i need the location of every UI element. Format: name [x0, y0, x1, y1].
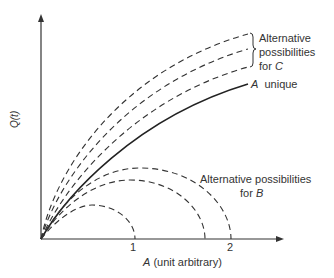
label-b-line2: for B	[240, 187, 263, 200]
label-a-unique: A unique	[251, 78, 298, 91]
label-c-line1: Alternative	[259, 32, 311, 45]
curve-b-1	[41, 205, 135, 239]
label-b-for: for	[240, 187, 256, 199]
curve-c-3	[41, 67, 248, 239]
y-axis-label: Q(t)	[8, 111, 21, 128]
label-c-line2: possibilities	[259, 46, 315, 59]
label-c-for: for	[259, 60, 275, 72]
curve-c-1	[41, 34, 248, 239]
brace-c	[250, 33, 256, 67]
y-axis-label-text: Q(t)	[9, 111, 20, 128]
chart-figure: Q(t) 1 2 A (unit arbitrary) Alternative …	[0, 0, 334, 278]
x-tick-2: 2	[227, 241, 233, 254]
label-b-letter: B	[256, 187, 263, 199]
curve-b-2	[41, 180, 205, 239]
x-tick-1: 1	[130, 241, 136, 254]
label-c-line3: for C	[259, 60, 283, 73]
x-axis-label: A (unit arbitrary)	[143, 256, 222, 269]
label-b-line1: Alternative possibilities	[200, 173, 311, 186]
x-axis-label-rest: (unit arbitrary)	[150, 256, 222, 268]
label-c-letter: C	[275, 60, 283, 72]
curve-a-unique	[41, 84, 248, 239]
label-a-rest: unique	[258, 78, 297, 90]
